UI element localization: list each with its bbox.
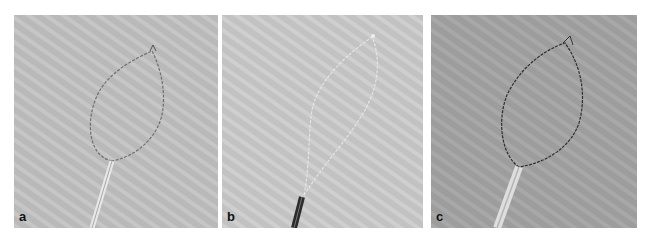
snare-loop-image-a <box>14 15 218 228</box>
panel-c: c <box>431 15 637 228</box>
panel-label-a: a <box>19 210 26 223</box>
snare-loop-image-c <box>431 15 637 228</box>
panel-a: a <box>14 15 218 228</box>
snare-loop-image-b <box>222 15 423 228</box>
panel-b: b <box>222 15 423 228</box>
panel-label-c: c <box>436 210 443 223</box>
panel-label-b: b <box>227 210 235 223</box>
